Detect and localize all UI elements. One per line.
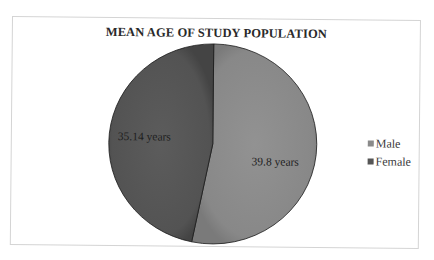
legend-item-female: Female — [368, 152, 411, 170]
legend-swatch-male-icon — [368, 140, 374, 146]
chart-area: MEAN AGE OF STUDY POPULATION 35.14 years… — [10, 16, 421, 249]
pie-chart — [11, 17, 422, 250]
legend-label-male: Male — [376, 136, 401, 151]
slice-label-female: 35.14 years — [118, 130, 171, 143]
pie-slice-female — [108, 43, 214, 242]
slice-label-male: 39.8 years — [252, 155, 299, 167]
legend-item-male: Male — [368, 134, 411, 152]
legend-swatch-female-icon — [368, 158, 374, 164]
chart-legend: Male Female — [368, 134, 412, 170]
legend-label-female: Female — [376, 154, 411, 169]
